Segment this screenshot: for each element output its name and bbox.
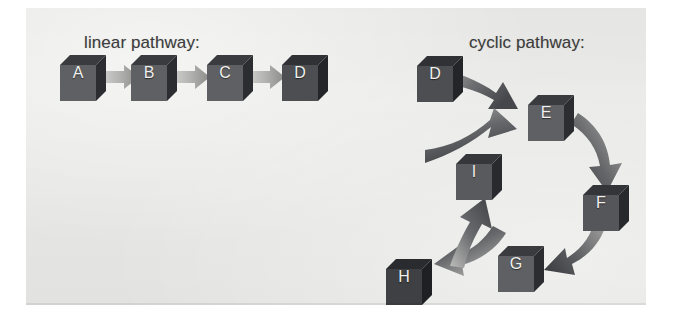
cube-cyclic-h: H <box>386 259 432 305</box>
cyclic-pathway-label: cyclic pathway: <box>469 33 585 53</box>
cube-cyclic-d: D <box>417 56 463 102</box>
arrow-h-to-i <box>450 198 492 268</box>
diagram-panel: linear pathway: cyclic pathway: <box>26 8 646 305</box>
arrow-b-to-c <box>173 65 210 89</box>
cube-cyclic-g: G <box>498 246 544 292</box>
arrow-c-to-d <box>248 65 285 89</box>
cube-cyclic-e: E <box>528 95 574 141</box>
cube-linear-d: D <box>282 55 328 101</box>
pathway-diagram-figure: linear pathway: cyclic pathway: <box>0 0 676 328</box>
arrow-g-to-h <box>434 226 506 276</box>
arrow-e-to-f <box>571 113 622 192</box>
cube-linear-c: C <box>207 55 253 101</box>
cube-linear-a: A <box>60 55 106 101</box>
linear-pathway-label: linear pathway: <box>84 33 200 53</box>
cube-linear-b: B <box>131 55 177 101</box>
cube-cyclic-f: F <box>583 185 629 231</box>
cube-cyclic-i: I <box>456 154 502 200</box>
